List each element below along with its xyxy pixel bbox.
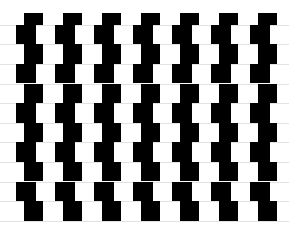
black-tile bbox=[211, 142, 231, 162]
black-tile bbox=[94, 103, 114, 123]
black-tile bbox=[172, 182, 192, 202]
black-tile bbox=[63, 13, 83, 24]
black-tile bbox=[180, 84, 200, 104]
black-tile bbox=[133, 25, 153, 45]
tile-row bbox=[0, 84, 289, 104]
tile-row bbox=[0, 201, 289, 221]
black-tile bbox=[94, 64, 114, 84]
black-tile bbox=[94, 142, 114, 162]
black-tile bbox=[24, 84, 44, 104]
black-tile bbox=[250, 103, 270, 123]
black-tile bbox=[55, 182, 75, 202]
black-tile bbox=[24, 44, 44, 64]
black-tile bbox=[172, 142, 192, 162]
black-tile bbox=[133, 182, 153, 202]
black-tile bbox=[16, 182, 36, 202]
black-tile bbox=[16, 103, 36, 123]
black-tile bbox=[133, 103, 153, 123]
black-tile bbox=[133, 142, 153, 162]
black-tile bbox=[258, 201, 278, 221]
black-tile bbox=[211, 64, 231, 84]
black-tile bbox=[102, 162, 122, 182]
tile-row bbox=[0, 25, 289, 45]
black-tile bbox=[63, 44, 83, 64]
tile-row bbox=[0, 123, 289, 143]
black-tile bbox=[211, 103, 231, 123]
black-tile bbox=[180, 44, 200, 64]
mortar-line bbox=[0, 221, 289, 222]
black-tile bbox=[172, 103, 192, 123]
black-tile bbox=[250, 182, 270, 202]
black-tile bbox=[258, 44, 278, 64]
black-tile bbox=[102, 84, 122, 104]
black-tile bbox=[250, 142, 270, 162]
black-tile bbox=[258, 123, 278, 143]
black-tile bbox=[141, 13, 161, 24]
black-tile bbox=[141, 123, 161, 143]
tile-row bbox=[0, 44, 289, 64]
black-tile bbox=[219, 13, 239, 24]
black-tile bbox=[258, 84, 278, 104]
black-tile bbox=[55, 142, 75, 162]
black-tile bbox=[24, 201, 44, 221]
black-tile bbox=[63, 201, 83, 221]
tile-row bbox=[0, 103, 289, 123]
black-tile bbox=[16, 142, 36, 162]
tile-row bbox=[0, 13, 289, 24]
black-tile bbox=[141, 84, 161, 104]
black-tile bbox=[258, 13, 278, 24]
black-tile bbox=[180, 123, 200, 143]
black-tile bbox=[63, 84, 83, 104]
black-tile bbox=[55, 64, 75, 84]
black-tile bbox=[16, 64, 36, 84]
black-tile bbox=[63, 123, 83, 143]
black-tile bbox=[180, 162, 200, 182]
black-tile bbox=[94, 182, 114, 202]
black-tile bbox=[94, 25, 114, 45]
black-tile bbox=[219, 201, 239, 221]
black-tile bbox=[24, 162, 44, 182]
black-tile bbox=[16, 25, 36, 45]
black-tile bbox=[141, 162, 161, 182]
black-tile bbox=[102, 13, 122, 24]
black-tile bbox=[141, 44, 161, 64]
black-tile bbox=[211, 25, 231, 45]
black-tile bbox=[24, 13, 44, 24]
black-tile bbox=[219, 84, 239, 104]
black-tile bbox=[219, 123, 239, 143]
black-tile bbox=[172, 64, 192, 84]
black-tile bbox=[180, 201, 200, 221]
black-tile bbox=[172, 25, 192, 45]
black-tile bbox=[102, 123, 122, 143]
black-tile bbox=[258, 162, 278, 182]
black-tile bbox=[211, 182, 231, 202]
black-tile bbox=[102, 44, 122, 64]
tile-row bbox=[0, 162, 289, 182]
black-tile bbox=[219, 44, 239, 64]
black-tile bbox=[24, 123, 44, 143]
black-tile bbox=[250, 25, 270, 45]
cafe-wall-illusion bbox=[0, 0, 289, 228]
black-tile bbox=[63, 162, 83, 182]
black-tile bbox=[250, 64, 270, 84]
black-tile bbox=[102, 201, 122, 221]
black-tile bbox=[180, 13, 200, 24]
black-tile bbox=[133, 64, 153, 84]
tile-row bbox=[0, 142, 289, 162]
black-tile bbox=[219, 162, 239, 182]
black-tile bbox=[55, 25, 75, 45]
tile-row bbox=[0, 64, 289, 84]
tile-row bbox=[0, 182, 289, 202]
black-tile bbox=[55, 103, 75, 123]
black-tile bbox=[141, 201, 161, 221]
